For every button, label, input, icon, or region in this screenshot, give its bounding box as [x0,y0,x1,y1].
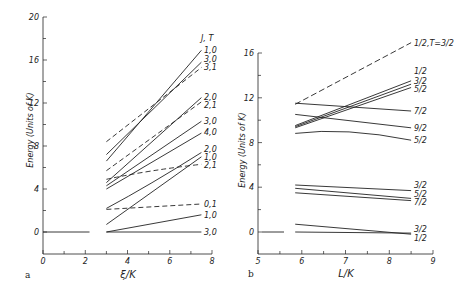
b-label: 7/2 [414,107,427,116]
a-label: 1,0 [204,211,217,220]
a-ytick-20: 20 [29,13,39,22]
a-line-2-0-upper [106,98,201,183]
a-line-1-0-mid [106,157,201,225]
b-ytick-12: 12 [244,94,254,103]
a-xtick-4: 4 [125,257,130,266]
panel-a-text: 20 16 12 8 4 0 0 2 4 6 8 ξ/K Energy (Uni… [25,13,217,280]
figure: 20 16 12 8 4 0 0 2 4 6 8 ξ/K Energy (Uni… [0,0,474,298]
b-line-3-2-upper [295,84,411,127]
a-panel-label: a [25,270,31,280]
b-xtick-5: 5 [255,257,260,266]
b-line-1-2-upper [295,81,411,126]
a-line-3-0-upper [106,62,201,154]
b-line-5-2-mid [295,131,411,140]
b-y-label: Energy (Units of K) [238,112,247,187]
b-line-7-2-upper [295,103,411,111]
b-ytick-0: 0 [249,228,254,237]
b-label: 5/2 [414,136,427,145]
a-label: 4,0 [204,128,217,137]
a-xtick-6: 6 [167,257,172,266]
a-label: 3,1 [204,63,217,72]
b-series [262,43,411,235]
a-label: 0,1 [204,200,217,209]
a-line-1-0-low [106,215,201,232]
panel-b-text: 16 12 8 4 0 5 6 7 8 9 L/K Energy (Units … [238,39,454,279]
a-header-jt: J, T [199,34,214,43]
a-xtick-0: 0 [40,257,45,266]
b-ytick-4: 4 [249,183,254,192]
b-x-label: L/K [338,268,355,279]
a-label: 2,1 [204,161,217,170]
panel-b [258,43,433,254]
b-xtick-6: 6 [299,257,304,266]
a-ytick-16: 16 [29,56,39,65]
a-line-1-0-top [106,50,201,161]
a-line-2-1-upper [106,102,201,171]
b-line-1-2-ground [295,232,411,233]
b-label: 1/2 [414,234,427,243]
b-line-1-2-T-3-2 [295,43,411,105]
b-label: 7/2 [414,198,427,207]
b-line-5-2-upper [295,88,411,128]
a-label: 3,0 [204,117,217,126]
a-series [43,50,201,232]
a-xtick-2: 2 [83,257,88,266]
b-xtick-9: 9 [430,257,435,266]
a-xtick-8: 8 [209,257,214,266]
b-label: 1/2,T=3/2 [414,39,454,48]
a-label: 2,1 [204,101,217,110]
a-ytick-4: 4 [34,185,39,194]
a-y-ticks [43,17,47,232]
b-panel-label: b [248,269,254,279]
b-x-ticks [258,250,433,254]
a-label: 1,0 [204,46,217,55]
b-xtick-8: 8 [387,257,392,266]
a-label: 3,0 [204,228,217,237]
b-label: 5/2 [414,85,427,94]
a-ytick-0: 0 [34,228,39,237]
b-label: 3/2 [414,225,427,234]
b-y-ticks [258,53,262,232]
b-ytick-16: 16 [244,49,254,58]
a-y-label: Energy (Units of K) [26,92,35,167]
b-xtick-7: 7 [343,257,349,266]
a-x-label: ξ/K [119,269,137,280]
b-ytick-8: 8 [249,139,254,148]
b-line-9-2 [295,114,411,127]
b-label: 1/2 [414,67,427,76]
b-label: 9/2 [414,124,427,133]
a-x-ticks [43,250,212,254]
b-label: 3/2 [414,181,427,190]
a-line-0-1 [106,204,201,209]
panel-a [43,17,212,254]
